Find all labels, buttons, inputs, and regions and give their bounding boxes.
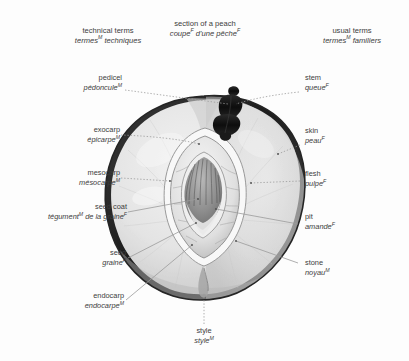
label-flesh: flesh pulpeF: [305, 169, 405, 188]
label-exocarp-fr: épicarpeM: [10, 135, 120, 145]
label-style: style styleM: [174, 326, 234, 345]
heading-usual-fr: termesM familiers: [300, 36, 404, 46]
label-seed-coat-en: seed coat: [2, 202, 127, 212]
illustration-page: technical terms termesM techniques secti…: [0, 0, 409, 361]
label-mesocarp-en: mesocarp: [6, 168, 120, 178]
label-seed: seed graineF: [10, 248, 126, 267]
label-stone-en: stone: [305, 258, 405, 268]
label-pedicel-en: pedicel: [10, 73, 122, 83]
label-style-fr: styleM: [174, 336, 234, 346]
label-endocarp: endocarp endocarpeM: [6, 291, 124, 310]
label-pit-fr: amandeF: [305, 222, 405, 232]
label-skin-en: skin: [305, 126, 405, 136]
label-flesh-fr: pulpeF: [305, 179, 405, 189]
label-seed-coat: seed coat tégumentM de la graineF: [2, 202, 127, 221]
label-skin-fr: peauF: [305, 136, 405, 146]
heading-section-of-a-peach: section of a peach coupeF d'une pêcheF: [145, 19, 265, 39]
label-pit-en: pit: [305, 212, 405, 222]
heading-usual-en: usual terms: [300, 26, 404, 36]
label-stone-fr: noyauM: [305, 268, 405, 278]
label-pedicel: pedicel pédonculeM: [10, 73, 122, 92]
label-skin: skin peauF: [305, 126, 405, 145]
label-style-en: style: [174, 326, 234, 336]
label-mesocarp-fr: mésocarpeM: [6, 178, 120, 188]
label-seed-coat-fr: tégumentM de la graineF: [2, 212, 127, 222]
heading-title-en: section of a peach: [145, 19, 265, 29]
label-pedicel-fr: pédonculeM: [10, 83, 122, 93]
label-seed-fr: graineF: [10, 258, 126, 268]
heading-usual-terms: usual terms termesM familiers: [300, 26, 404, 46]
label-stem-en: stem: [305, 73, 405, 83]
label-seed-en: seed: [10, 248, 126, 258]
label-stem: stem queueF: [305, 73, 405, 92]
heading-title-fr: coupeF d'une pêcheF: [145, 29, 265, 39]
label-stone: stone noyauM: [305, 258, 405, 277]
label-exocarp-en: exocarp: [10, 125, 120, 135]
label-exocarp: exocarp épicarpeM: [10, 125, 120, 144]
label-mesocarp: mesocarp mésocarpeM: [6, 168, 120, 187]
label-pit: pit amandeF: [305, 212, 405, 231]
label-endocarp-fr: endocarpeM: [6, 301, 124, 311]
label-stem-fr: queueF: [305, 83, 405, 93]
label-flesh-en: flesh: [305, 169, 405, 179]
label-endocarp-en: endocarp: [6, 291, 124, 301]
